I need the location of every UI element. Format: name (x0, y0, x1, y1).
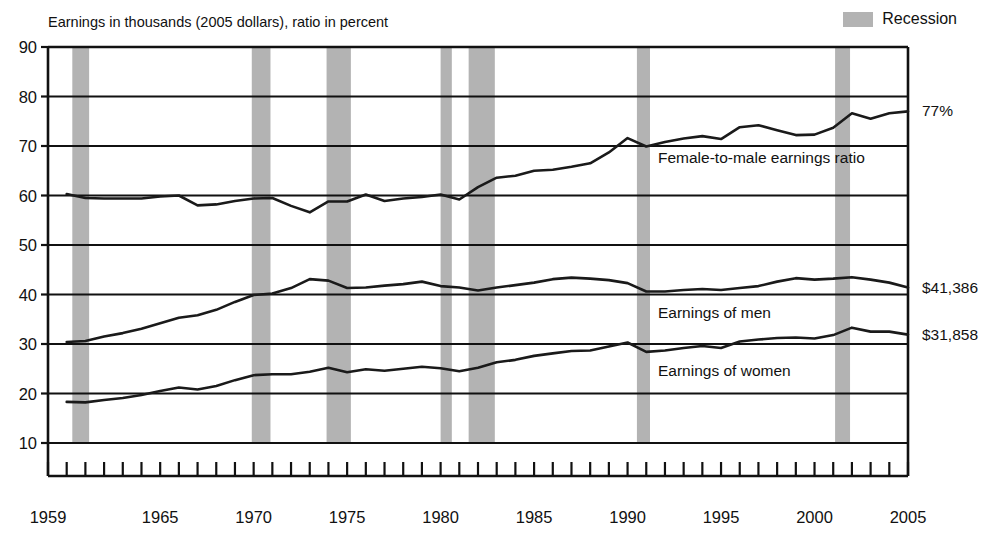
x-tick-label: 2000 (796, 508, 833, 527)
y-tick-label: 30 (0, 335, 37, 354)
y-tick-label: 90 (0, 38, 37, 57)
y-tick-label: 70 (0, 137, 37, 156)
y-tick-label: 60 (0, 186, 37, 205)
y-tick-label: 50 (0, 236, 37, 255)
end-label-men: $41,386 (922, 279, 978, 297)
series-label-ratio: Female-to-male earnings ratio (658, 149, 865, 167)
x-tick-label: 1995 (703, 508, 740, 527)
end-label-ratio: 77% (922, 102, 953, 120)
end-label-women: $31,858 (922, 326, 978, 344)
x-tick-label: 1970 (235, 508, 272, 527)
series-label-men: Earnings of men (658, 304, 771, 322)
x-tick-label: 1985 (516, 508, 553, 527)
x-tick-label: 1959 (30, 508, 67, 527)
x-tick-label: 2005 (890, 508, 927, 527)
y-tick-label: 40 (0, 285, 37, 304)
x-tick-label: 1975 (329, 508, 366, 527)
y-tick-label: 10 (0, 434, 37, 453)
x-tick-label: 1980 (422, 508, 459, 527)
plot-area (0, 0, 1003, 545)
x-tick-label: 1965 (142, 508, 179, 527)
x-tick-label: 1990 (609, 508, 646, 527)
chart-root: Earnings in thousands (2005 dollars), ra… (0, 0, 1003, 545)
series-label-women: Earnings of women (658, 362, 791, 380)
y-tick-label: 20 (0, 384, 37, 403)
y-tick-label: 80 (0, 87, 37, 106)
